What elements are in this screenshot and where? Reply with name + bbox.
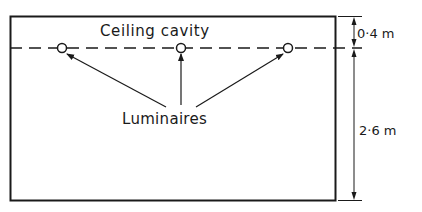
luminaires-label: Luminaires	[122, 110, 207, 128]
luminaire-icon-left	[58, 44, 67, 53]
room-height-label: 2·6 m	[359, 123, 396, 138]
room-dim-arrow-up	[352, 49, 357, 57]
arrow-to-right-luminaire	[196, 54, 283, 107]
room-dim-arrow-down	[352, 192, 357, 200]
cavity-dim-arrow-down	[352, 39, 357, 47]
cavity-height-label: 0·4 m	[357, 26, 394, 41]
ceiling-cavity-label: Ceiling cavity	[100, 22, 210, 40]
cavity-dim-arrow-up	[352, 17, 357, 25]
luminaire-icon-right	[284, 44, 293, 53]
arrow-to-left-luminaire	[67, 54, 166, 107]
room-section-diagram: Ceiling cavity Luminaires 0·4 m 2·6 m	[0, 0, 422, 212]
luminaire-icon-center	[177, 44, 186, 53]
